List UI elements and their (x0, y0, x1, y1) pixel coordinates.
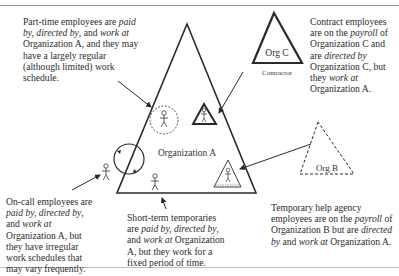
contract-arrow (219, 72, 243, 113)
org-c-label: Org C (265, 48, 288, 58)
on-call-description: On-call employees are paid by, directed … (6, 196, 98, 274)
on-call-arrow (72, 175, 100, 190)
contract-worker-icon (193, 104, 216, 124)
org-a-label: Organization A (158, 148, 216, 158)
temp-agency-description: Temporary help agency employees are on t… (271, 202, 395, 247)
org-b-label: Org B (316, 163, 338, 173)
part-time-worker-icon (150, 106, 178, 134)
short-term-description: Short-term temporaries are paid by, dire… (127, 212, 227, 268)
part-time-arrow (118, 81, 151, 107)
org-c-triangle: Org C Contractor (253, 13, 302, 77)
contract-description: Contract employees are on the payroll of… (310, 16, 398, 94)
on-call-cycle-icon (114, 144, 144, 174)
temp-agency-arrow (240, 144, 311, 169)
short-term-arrow (162, 198, 166, 209)
part-time-description: Part-time employees are paid by, directe… (23, 16, 141, 83)
on-call-worker-icon (102, 164, 110, 180)
temp-agency-worker-icon (214, 160, 241, 187)
org-c-sublabel: Contractor (262, 69, 293, 77)
short-term-worker-icon (151, 174, 159, 190)
org-b-triangle: Org B (300, 122, 354, 174)
